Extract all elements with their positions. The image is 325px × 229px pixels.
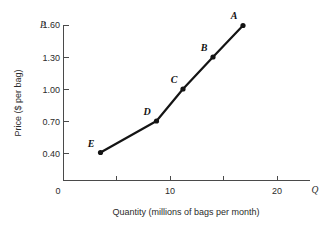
data-point-c [180, 86, 185, 91]
data-point-label-b: B [200, 42, 208, 53]
data-point-label-d: D [142, 106, 150, 117]
data-point-b [210, 54, 215, 59]
x-axis-symbol: Q [312, 185, 319, 195]
y-tick-label-0-40: 0.40 [42, 149, 60, 159]
x-axis-title: Quantity (millions of bags per month) [112, 207, 259, 217]
x-tick-label-0: 0 [55, 186, 60, 196]
x-tick-label-10: 10 [165, 186, 175, 196]
y-tick-label-1-00: 1.00 [42, 85, 60, 95]
y-tick-label-0-70: 0.70 [42, 117, 60, 127]
data-point-e [98, 150, 103, 155]
y-tick-label-1-60: 1.60 [42, 20, 60, 30]
data-point-a [240, 23, 245, 28]
data-point-label-a: A [230, 10, 238, 21]
data-point-d [154, 118, 159, 123]
chart-svg: P 1.60 1.30 1.00 0.70 0.40 Price ($ per … [0, 0, 325, 229]
data-point-label-e: E [87, 138, 95, 149]
x-tick-label-20: 20 [272, 186, 282, 196]
y-axis-title: Price ($ per bag) [13, 69, 23, 136]
supply-curve-figure: P 1.60 1.30 1.00 0.70 0.40 Price ($ per … [0, 0, 325, 229]
data-point-label-c: C [171, 74, 178, 85]
y-tick-label-1-30: 1.30 [42, 53, 60, 63]
